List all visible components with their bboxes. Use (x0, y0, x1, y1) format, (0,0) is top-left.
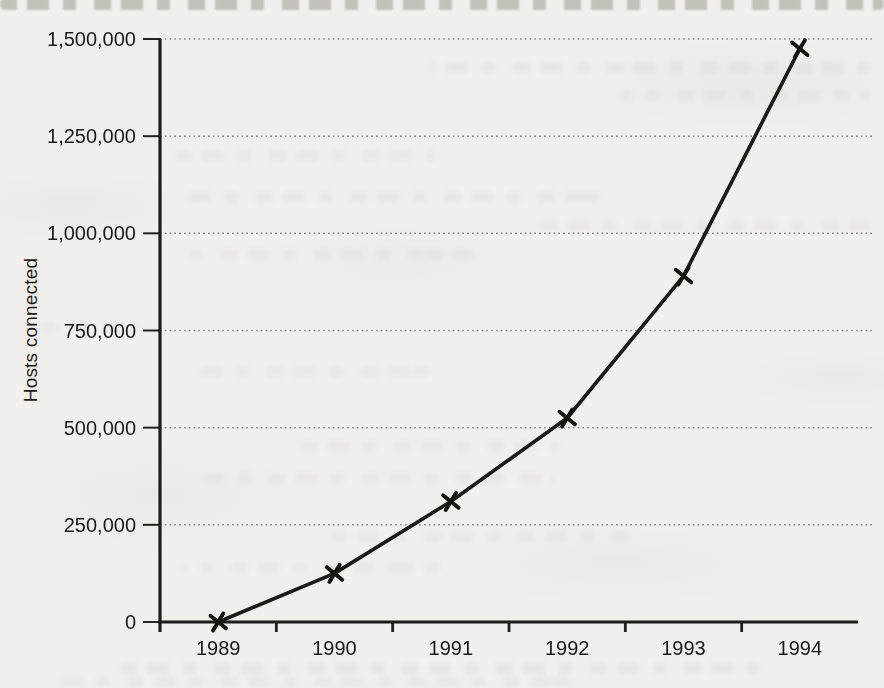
data-point-marker-1992 (559, 409, 574, 426)
data-line (218, 49, 800, 622)
scanned-page: 1,500,0001,250,0001,000,000750,000500,00… (0, 0, 884, 688)
x-tick-label: 1992 (545, 637, 590, 659)
data-point-marker-1993 (676, 268, 691, 285)
x-tick-label: 1990 (312, 637, 357, 659)
y-tick-label: 0 (125, 611, 136, 633)
y-tick-label: 750,000 (64, 320, 136, 342)
y-axis-title: Hosts connected (20, 258, 42, 403)
data-point-marker-1994 (792, 40, 807, 57)
data-point-marker-1990 (327, 565, 342, 582)
y-tick-label: 1,500,000 (47, 28, 136, 50)
y-tick-label: 1,250,000 (47, 125, 136, 147)
x-tick-label: 1991 (429, 637, 474, 659)
chart-svg: 1,500,0001,250,0001,000,000750,000500,00… (0, 0, 884, 688)
data-point-marker-1991 (443, 493, 458, 510)
x-tick-label: 1993 (661, 637, 706, 659)
x-tick-label: 1989 (196, 637, 241, 659)
y-tick-label: 500,000 (64, 417, 136, 439)
x-tick-label: 1994 (778, 637, 823, 659)
y-tick-label: 1,000,000 (47, 222, 136, 244)
y-tick-label: 250,000 (64, 514, 136, 536)
